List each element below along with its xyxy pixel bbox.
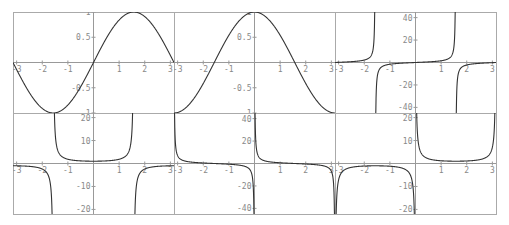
svg-text:1: 1 [117,166,122,175]
svg-text:-10: -10 [76,182,91,191]
svg-text:-1: -1 [63,166,73,175]
plot-csc: -3-2-11232010-10-20 [335,113,496,214]
svg-text:-2: -2 [198,65,208,74]
svg-text:10: 10 [81,137,91,146]
svg-text:0.5: 0.5 [76,33,91,42]
svg-text:-2: -2 [37,166,47,175]
svg-text:1: 1 [439,166,444,175]
svg-text:1: 1 [117,65,122,74]
svg-text:3: 3 [490,166,495,175]
svg-text:-2: -2 [198,166,208,175]
svg-text:3: 3 [168,65,173,74]
svg-text:2: 2 [303,65,308,74]
plot-sec: -3-2-11232010-10-20 [13,113,174,214]
svg-text:0.5: 0.5 [237,33,252,42]
svg-text:3: 3 [168,166,173,175]
svg-text:-40: -40 [237,204,252,213]
svg-text:-3: -3 [174,166,183,175]
svg-text:-3: -3 [174,65,183,74]
svg-text:40: 40 [403,14,413,23]
svg-text:-1: -1 [385,65,395,74]
svg-text:-0.5: -0.5 [232,84,251,93]
svg-text:20: 20 [242,137,252,146]
svg-text:-3: -3 [335,65,344,74]
svg-text:2: 2 [303,166,308,175]
svg-text:-2: -2 [359,65,369,74]
svg-text:-1: -1 [224,65,234,74]
svg-text:-20: -20 [398,81,413,90]
svg-text:20: 20 [403,36,413,45]
svg-text:-10: -10 [398,182,413,191]
svg-text:1: 1 [278,65,283,74]
svg-text:1: 1 [278,166,283,175]
svg-text:-20: -20 [398,205,413,214]
svg-text:2: 2 [464,166,469,175]
svg-text:2: 2 [142,65,147,74]
svg-text:-40: -40 [398,103,413,112]
svg-text:20: 20 [403,114,413,123]
plot-sin: -3-2-112310.5-0.5-1 [13,12,174,113]
plot-cos: -3-2-112310.5-0.5-1 [174,12,335,113]
svg-text:40: 40 [242,115,252,124]
svg-text:-1: -1 [63,65,73,74]
plot-tan: -3-2-11234020-20-40 [335,12,496,113]
svg-text:1: 1 [439,65,444,74]
plot-cot: -3-2-11234020-20-40 [174,113,335,214]
svg-text:-20: -20 [76,205,91,214]
svg-text:-1: -1 [224,166,234,175]
svg-text:3: 3 [490,65,495,74]
plot-grid: -3-2-112310.5-0.5-1-3-2-112310.5-0.5-1-3… [13,12,497,215]
svg-text:10: 10 [403,137,413,146]
svg-text:-3: -3 [335,166,344,175]
svg-text:-2: -2 [359,166,369,175]
svg-text:20: 20 [81,114,91,123]
svg-text:3: 3 [329,65,334,74]
svg-text:-3: -3 [13,166,22,175]
svg-text:-0.5: -0.5 [71,84,90,93]
svg-text:-2: -2 [37,65,47,74]
svg-text:-20: -20 [237,182,252,191]
svg-text:1: 1 [86,12,91,17]
